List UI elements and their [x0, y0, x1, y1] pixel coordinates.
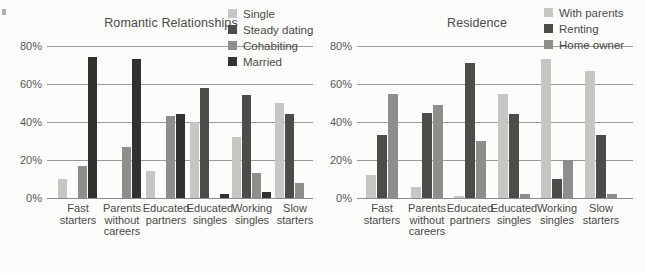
- bar-married-fast-starters: [88, 57, 97, 198]
- y-tick-label-20: 20%: [2, 154, 42, 166]
- category-label-slow-starters: Slowstarters: [259, 203, 331, 226]
- bar-home-owner-educated-partners: [476, 141, 486, 198]
- y-tick-label-60: 60%: [312, 78, 352, 90]
- bar-cohabiting-educated-partners: [166, 116, 175, 198]
- bar-steady-dating-educated-singles: [200, 88, 209, 198]
- bar-home-owner-parents-without-careers: [433, 105, 443, 198]
- chart-title-romantic-relationships: Romantic Relationships: [91, 16, 251, 30]
- legend-label-renting: Renting: [559, 23, 599, 35]
- bar-with-parents-educated-partners: [454, 196, 464, 198]
- bar-home-owner-slow-starters: [607, 194, 617, 198]
- bar-steady-dating-slow-starters: [285, 114, 294, 198]
- y-tick-label-80: 80%: [2, 40, 42, 52]
- bar-single-educated-singles: [190, 122, 199, 198]
- legend-swatch-single: [228, 9, 237, 18]
- y-tick-label-40: 40%: [312, 116, 352, 128]
- legend-label-single: Single: [243, 8, 275, 20]
- bar-renting-educated-partners: [465, 63, 475, 198]
- legend-swatch-married: [228, 57, 237, 66]
- bar-with-parents-working-singles: [541, 59, 551, 198]
- y-tick-label-0: 0%: [2, 192, 42, 204]
- bar-married-educated-singles: [220, 194, 229, 198]
- bar-cohabiting-working-singles: [252, 173, 261, 198]
- bar-single-slow-starters: [275, 103, 284, 198]
- bar-renting-fast-starters: [377, 135, 387, 198]
- bar-renting-educated-singles: [509, 114, 519, 198]
- dual-bar-chart-figure: Romantic Relationships Residence 0%20%40…: [0, 0, 645, 273]
- bar-married-educated-partners: [176, 114, 185, 198]
- legend-swatch-steady-dating: [228, 25, 237, 34]
- scan-artifact: [2, 9, 6, 15]
- legend-label-cohabiting: Cohabiting: [243, 40, 298, 52]
- legend-label-married: Married: [243, 56, 282, 68]
- category-label-slow-starters: Slowstarters: [565, 203, 637, 226]
- legend-swatch-home-owner: [544, 40, 553, 49]
- bar-home-owner-fast-starters: [388, 94, 398, 199]
- y-tick-label-60: 60%: [2, 78, 42, 90]
- bar-cohabiting-slow-starters: [295, 183, 304, 198]
- bar-married-parents-without-careers: [132, 59, 141, 198]
- chart-title-residence: Residence: [417, 16, 537, 30]
- legend-swatch-with-parents: [544, 8, 553, 17]
- gridline-0-pct: [357, 198, 633, 199]
- bar-with-parents-slow-starters: [585, 71, 595, 198]
- bar-renting-slow-starters: [596, 135, 606, 198]
- category-label-line: Slow: [259, 203, 331, 215]
- legend-label-steady-dating: Steady dating: [243, 24, 313, 36]
- bar-with-parents-parents-without-careers: [411, 187, 421, 198]
- bar-single-educated-partners: [146, 171, 155, 198]
- legend-swatch-cohabiting: [228, 41, 237, 50]
- bar-renting-parents-without-careers: [422, 113, 432, 199]
- category-label-line: careers: [391, 226, 463, 238]
- bar-with-parents-fast-starters: [366, 175, 376, 198]
- y-tick-label-20: 20%: [312, 154, 352, 166]
- category-label-line: starters: [259, 215, 331, 227]
- bar-cohabiting-fast-starters: [78, 166, 87, 198]
- bar-home-owner-working-singles: [563, 160, 573, 198]
- gridline-60-pct: [47, 84, 313, 85]
- category-label-line: careers: [86, 226, 158, 238]
- legend-label-home-owner: Home owner: [559, 39, 624, 51]
- y-tick-label-80: 80%: [312, 40, 352, 52]
- bar-home-owner-educated-singles: [520, 194, 530, 198]
- category-label-line: starters: [565, 215, 637, 227]
- bar-married-working-singles: [262, 192, 271, 198]
- bar-renting-working-singles: [552, 179, 562, 198]
- gridline-0-pct: [47, 198, 313, 199]
- legend-label-with-parents: With parents: [559, 7, 624, 19]
- bar-single-fast-starters: [58, 179, 67, 198]
- bar-steady-dating-working-singles: [242, 95, 251, 198]
- bar-cohabiting-parents-without-careers: [122, 147, 131, 198]
- category-label-line: Slow: [565, 203, 637, 215]
- bar-with-parents-educated-singles: [498, 94, 508, 199]
- bar-single-working-singles: [232, 137, 241, 198]
- y-tick-label-40: 40%: [2, 116, 42, 128]
- legend-swatch-renting: [544, 24, 553, 33]
